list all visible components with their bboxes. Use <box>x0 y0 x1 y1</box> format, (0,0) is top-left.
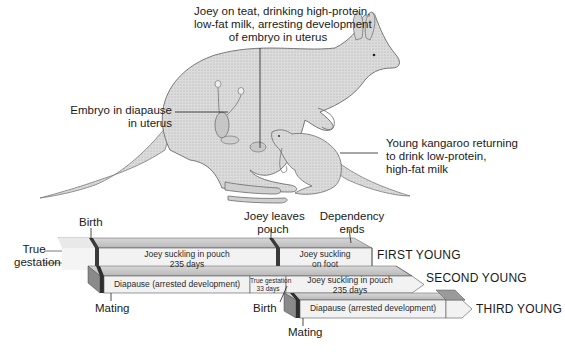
milestone-mating: Mating <box>95 302 130 315</box>
callout-line: Embryo in diapause <box>60 104 172 117</box>
milestone-line: ends <box>318 223 386 236</box>
segment-text: Diapause (arrested development) <box>300 304 446 314</box>
callout-young-kangaroo: Young kangaroo returning to drink low-pr… <box>386 137 518 176</box>
milestone-line: True <box>14 243 54 256</box>
milestone-birth: Birth <box>79 216 103 229</box>
milestone-true-gestation: True gestation <box>14 243 54 269</box>
row-label-second-young: SECOND YOUNG <box>426 271 527 285</box>
callout-embryo: Embryo in diapause in uterus <box>60 104 172 130</box>
pouch-joey <box>250 142 266 152</box>
uterus <box>215 112 229 138</box>
segment-text: 235 days <box>96 260 278 270</box>
milestone-birth-second: Birth <box>253 302 277 315</box>
mother-eye <box>373 54 376 57</box>
segment-text: True gestation <box>250 277 286 285</box>
segment-joey-suckling-pouch: Joey suckling in pouch 235 days <box>96 250 278 269</box>
segment-true-gestation: True gestation 33 days <box>250 277 286 292</box>
callout-line: Joey on teat, drinking high-protein, <box>194 5 362 18</box>
segment-text: 235 days <box>290 286 410 296</box>
callout-line: of embryo in uterus <box>194 31 362 44</box>
kangaroo-illustration <box>0 0 565 354</box>
segment-text: 33 days <box>250 285 286 293</box>
milestone-line: pouch <box>244 223 302 236</box>
callout-line: to drink low-protein, <box>386 150 518 163</box>
segment-diapause-third: Diapause (arrested development) <box>300 304 446 314</box>
segment-diapause: Diapause (arrested development) <box>104 280 250 290</box>
milestone-joey-leaves-pouch: Joey leaves pouch <box>244 210 302 236</box>
milestone-line: Joey leaves <box>244 210 302 223</box>
callout-line: high-fat milk <box>386 163 518 176</box>
row-label-third-young: THIRD YOUNG <box>476 302 562 316</box>
segment-joey-suckling-pouch-second: Joey suckling in pouch 235 days <box>290 276 410 295</box>
callout-line: Young kangaroo returning <box>386 137 518 150</box>
milestone-dependency-ends: Dependency ends <box>318 210 386 236</box>
segment-text: on foot <box>278 260 372 270</box>
callout-joey-on-teat: Joey on teat, drinking high-protein, low… <box>194 5 362 44</box>
callout-line: in uterus <box>60 117 172 130</box>
row-label-first-young: FIRST YOUNG <box>377 248 461 262</box>
milestone-line: Dependency <box>318 210 386 223</box>
segment-joey-suckling-foot: Joey suckling on foot <box>278 250 372 269</box>
callout-line: low-fat milk, arresting development <box>194 18 362 31</box>
segment-text: Diapause (arrested development) <box>104 280 250 290</box>
milestone-line: gestation <box>14 256 54 269</box>
milestone-mating-second: Mating <box>288 326 323 339</box>
